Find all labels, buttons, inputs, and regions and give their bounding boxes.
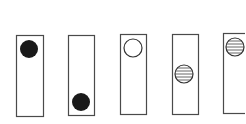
panel-1 [17,36,44,117]
solid-ball-icon [20,40,38,58]
panel-5 [224,34,246,114]
panel-3 [121,35,147,115]
hollow-ball-icon [124,39,142,57]
striped-ball-icon [174,65,194,83]
ball-position-diagram [0,0,245,124]
striped-ball-icon [225,38,245,56]
solid-ball-icon [72,93,90,111]
panel-2 [69,36,95,116]
panel-4 [173,35,199,115]
